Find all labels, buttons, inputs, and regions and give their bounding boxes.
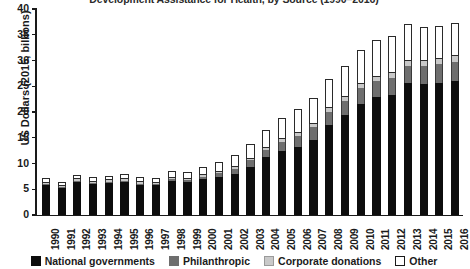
bar-segment-philanthropic	[404, 66, 412, 83]
x-tick-label-1994: 1994	[113, 229, 124, 250]
bar-segment-philanthropic	[435, 64, 443, 83]
x-tick-label-2011: 2011	[380, 229, 391, 250]
x-tick-label-2005: 2005	[286, 229, 297, 250]
legend-item-philanthropic[interactable]: Philanthropic	[169, 255, 250, 267]
bar-1991[interactable]	[58, 182, 66, 215]
bar-segment-philanthropic	[357, 88, 365, 103]
bar-2004[interactable]	[262, 130, 270, 215]
bar-segment-national-governments	[294, 147, 302, 215]
legend-label: Other	[409, 255, 437, 267]
bar-segment-national-governments	[451, 81, 459, 215]
bar-1997[interactable]	[152, 178, 160, 215]
bar-2013[interactable]	[404, 24, 412, 215]
bar-segment-national-governments	[42, 185, 50, 215]
legend-label: National governments	[45, 255, 155, 267]
bar-1999[interactable]	[183, 172, 191, 215]
x-tick-label-2014: 2014	[428, 229, 439, 250]
bar-segment-national-governments	[372, 97, 380, 215]
bar-segment-other	[435, 26, 443, 59]
legend-item-corporate-donations[interactable]: Corporate donations	[264, 255, 381, 267]
bar-segment-other	[372, 40, 380, 76]
x-tick-label-1996: 1996	[144, 229, 155, 250]
x-axis-tick-labels: 1990199119921993199419951996199719981999…	[38, 217, 463, 251]
bar-2015[interactable]	[435, 26, 443, 215]
bar-segment-national-governments	[89, 184, 97, 215]
bar-segment-other	[199, 167, 207, 175]
bar-segment-other	[168, 171, 176, 178]
bar-2005[interactable]	[278, 118, 286, 215]
bar-segment-other	[325, 79, 333, 108]
bar-segment-national-governments	[105, 183, 113, 215]
y-tick-mark	[32, 86, 37, 87]
bar-2011[interactable]	[372, 40, 380, 215]
bar-segment-philanthropic	[341, 101, 349, 115]
x-tick-label-2004: 2004	[270, 229, 281, 250]
philanthropic-swatch-icon	[169, 256, 179, 266]
y-tick-mark	[32, 214, 37, 215]
bar-segment-national-governments	[199, 179, 207, 215]
bar-1992[interactable]	[73, 175, 81, 215]
bar-2006[interactable]	[294, 109, 302, 215]
bar-segment-other	[294, 109, 302, 132]
bar-2007[interactable]	[309, 98, 317, 215]
x-tick-label-2002: 2002	[239, 229, 250, 250]
x-tick-label-1999: 1999	[192, 229, 203, 250]
legend-item-national-governments[interactable]: National governments	[31, 255, 155, 267]
bar-2012[interactable]	[388, 36, 396, 215]
bar-segment-other	[183, 172, 191, 179]
bar-2009[interactable]	[341, 66, 349, 215]
bar-segment-national-governments	[136, 185, 144, 215]
bar-1995[interactable]	[120, 174, 128, 215]
y-tick-mark	[32, 34, 37, 35]
bar-2000[interactable]	[199, 167, 207, 215]
y-tick-mark	[32, 60, 37, 61]
legend-item-other[interactable]: Other	[395, 255, 437, 267]
bar-2008[interactable]	[325, 79, 333, 215]
bar-segment-national-governments	[120, 182, 128, 215]
bar-segment-national-governments	[309, 140, 317, 215]
y-tick-mark	[32, 137, 37, 138]
bar-segment-philanthropic	[372, 81, 380, 97]
bar-segment-national-governments	[404, 83, 412, 215]
y-tick-label: 40	[17, 2, 29, 14]
bar-segment-national-governments	[262, 157, 270, 215]
x-tick-label-1995: 1995	[129, 229, 140, 250]
y-tick-label: 35	[17, 28, 29, 40]
bar-segment-philanthropic	[451, 62, 459, 81]
bar-1993[interactable]	[89, 177, 97, 215]
bar-segment-national-governments	[341, 115, 349, 215]
bar-2002[interactable]	[231, 155, 239, 215]
x-tick-label-1997: 1997	[160, 229, 171, 250]
bar-segment-national-governments	[183, 182, 191, 215]
x-tick-label-2003: 2003	[255, 229, 266, 250]
bar-segment-other	[451, 23, 459, 56]
x-tick-label-1991: 1991	[66, 229, 77, 250]
x-tick-label-2009: 2009	[349, 229, 360, 250]
bar-segment-other	[231, 155, 239, 167]
bar-1994[interactable]	[105, 176, 113, 215]
bar-segment-national-governments	[357, 104, 365, 215]
bar-segment-national-governments	[278, 151, 286, 215]
x-tick-label-2015: 2015	[443, 229, 454, 250]
bar-segment-other	[215, 162, 223, 172]
national-swatch-icon	[31, 256, 41, 266]
bar-1996[interactable]	[136, 177, 144, 215]
y-tick-mark	[32, 189, 37, 190]
bar-2003[interactable]	[246, 144, 254, 215]
bar-2014[interactable]	[420, 27, 428, 215]
bar-2001[interactable]	[215, 162, 223, 215]
bar-segment-philanthropic	[278, 142, 286, 151]
bar-1998[interactable]	[168, 171, 176, 215]
bar-segment-national-governments	[325, 125, 333, 215]
bar-2016[interactable]	[451, 23, 459, 215]
chart-title: Development Assistance for Health, by So…	[0, 0, 468, 5]
x-tick-label-2006: 2006	[302, 229, 313, 250]
corporate-swatch-icon	[264, 256, 274, 266]
x-tick-label-2000: 2000	[207, 229, 218, 250]
bar-segment-other	[404, 24, 412, 61]
bar-segment-philanthropic	[309, 127, 317, 139]
bar-1990[interactable]	[42, 178, 50, 215]
x-tick-label-2008: 2008	[333, 229, 344, 250]
bar-2010[interactable]	[357, 50, 365, 215]
